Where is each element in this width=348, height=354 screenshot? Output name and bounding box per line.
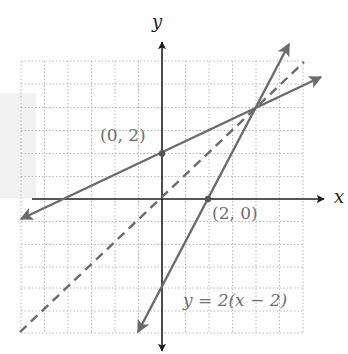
coordinate-plane: [0, 0, 348, 354]
equation-label: y = 2(x − 2): [183, 292, 287, 309]
point-label-2-0: (2, 0): [212, 205, 258, 222]
y-axis-label: y: [152, 13, 162, 31]
line-2-x-minus-2: [138, 44, 289, 332]
point-0-2: [159, 150, 165, 156]
x-axis-label: x: [334, 188, 344, 206]
point-2-0: [205, 196, 211, 202]
point-label-0-2: (0, 2): [100, 127, 146, 144]
line-half-x-plus-2: [21, 77, 321, 219]
